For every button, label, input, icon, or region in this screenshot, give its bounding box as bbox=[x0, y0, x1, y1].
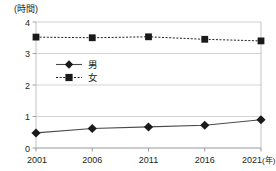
legend-label-male: 男 bbox=[88, 59, 98, 70]
y-tick-label-1: 1 bbox=[25, 112, 30, 122]
chart-canvas: 4 3 2 1 0 2001 2006 2011 2016 2021 (年) bbox=[0, 0, 276, 171]
x-tick-label-2001: 2001 bbox=[27, 155, 47, 165]
x-axis-ticks bbox=[36, 148, 261, 152]
x-axis-labels: 2001 2006 2011 2016 2021 (年) bbox=[27, 155, 276, 165]
line-chart: (時間) bbox=[0, 0, 276, 171]
series-female-point-2011 bbox=[145, 33, 152, 40]
legend-label-female: 女 bbox=[88, 72, 98, 83]
y-axis-labels: 4 3 2 1 0 bbox=[25, 18, 30, 154]
y-tick-label-0: 0 bbox=[25, 144, 30, 154]
y-tick-label-2: 2 bbox=[25, 81, 30, 91]
series-female-point-2006 bbox=[89, 34, 96, 41]
series-female-point-2021 bbox=[258, 38, 265, 45]
y-tick-label-4: 4 bbox=[25, 18, 30, 28]
series-female-point-2016 bbox=[201, 36, 208, 43]
x-tick-label-2006: 2006 bbox=[82, 155, 102, 165]
x-tick-label-2011: 2011 bbox=[139, 155, 158, 165]
y-tick-label-3: 3 bbox=[25, 49, 30, 59]
legend-female-square-icon bbox=[65, 74, 72, 81]
x-tick-label-2021: 2021 bbox=[242, 155, 262, 165]
x-tick-label-2016: 2016 bbox=[195, 155, 215, 165]
series-female-point-2001 bbox=[33, 34, 40, 41]
x-axis-unit-label: (年) bbox=[262, 155, 276, 165]
